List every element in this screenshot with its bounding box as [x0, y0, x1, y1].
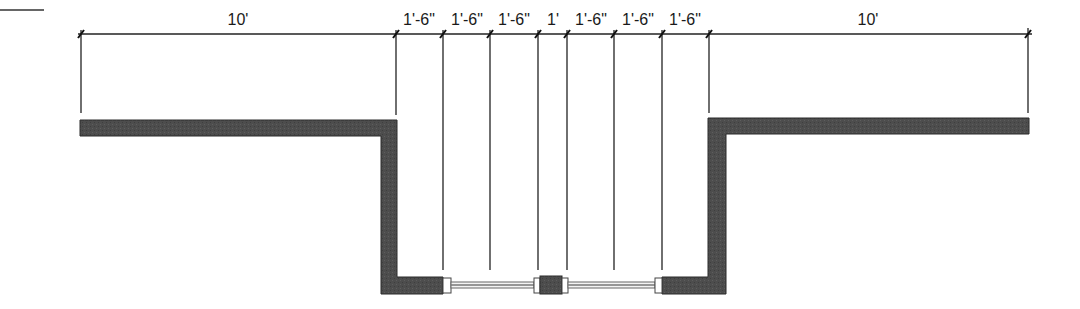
- dimension-label: 1'-6": [575, 11, 607, 28]
- window-jamb: [443, 278, 451, 293]
- dimension-label: 10': [228, 11, 249, 28]
- left-wall: [80, 120, 443, 294]
- dimension-label: 1'-6": [403, 11, 435, 28]
- center-mullion: [540, 276, 562, 294]
- dimension-label: 1'-6": [669, 11, 701, 28]
- window-left: [443, 278, 540, 293]
- window-jamb: [534, 278, 540, 293]
- dimension-label: 1'-6": [622, 11, 654, 28]
- right-wall: [662, 118, 1029, 294]
- dimension-label: 1'-6": [451, 11, 483, 28]
- dimension-label: 1': [547, 11, 559, 28]
- dimension-label: 10': [858, 11, 879, 28]
- window-jamb: [655, 278, 662, 293]
- dimension-string: 10' 1'-6" 1'-6" 1'-6" 1' 1'-6" 1'-6" 1'-…: [78, 11, 1032, 270]
- wall-plan-diagram: 10' 1'-6" 1'-6" 1'-6" 1' 1'-6" 1'-6" 1'-…: [0, 0, 1080, 309]
- window-right: [562, 278, 662, 293]
- dimension-label: 1'-6": [498, 11, 530, 28]
- window-jamb: [562, 278, 568, 293]
